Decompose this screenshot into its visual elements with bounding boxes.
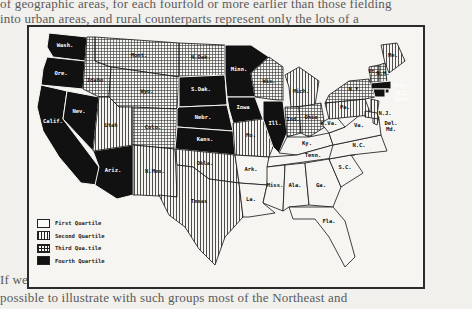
state-ndak: [179, 43, 225, 77]
state-label: La.: [246, 196, 256, 202]
state-label: Ind.: [286, 116, 299, 122]
state-label: Ore.: [54, 70, 67, 76]
state-label: Kans.: [197, 136, 214, 142]
legend-item-second: Second Quartile: [37, 230, 105, 242]
state-label: N.H.: [376, 70, 389, 76]
state-label: Nebr.: [195, 114, 212, 120]
legend-label: First Quartile: [55, 220, 101, 226]
state-label: N.Dak.: [191, 54, 211, 60]
state-label: Me.: [388, 52, 398, 58]
state-label: Ill.: [268, 120, 281, 126]
state-label: Mont.: [131, 52, 148, 58]
state-label: N.C.: [352, 142, 365, 148]
legend-swatch-second: [37, 231, 50, 240]
state-label: N.J.: [378, 110, 391, 116]
state-label: Wyo.: [140, 88, 153, 95]
state-label: Wis.: [262, 78, 275, 84]
state-label: Ala.: [288, 182, 301, 188]
state-label: Okla.: [197, 160, 214, 166]
state-label: Texas: [191, 198, 208, 204]
state-ri: [385, 89, 389, 93]
state-label: Fla.: [322, 218, 335, 224]
state-label: Mass.: [393, 82, 410, 88]
state-label: Pa.: [340, 104, 350, 110]
legend-swatch-third: [37, 244, 50, 253]
state-label: Utah: [104, 122, 117, 128]
legend-item-fourth: Fourth Quartile: [37, 255, 105, 267]
state-label: Calif.: [43, 118, 63, 124]
legend-swatch-fourth: [37, 256, 50, 265]
text-line-below-2: possible to illustrate with such groups …: [0, 290, 472, 306]
state-label: Miss.: [267, 182, 284, 188]
state-label: Mich.: [293, 88, 310, 94]
state-label: Conn.: [395, 96, 412, 102]
state-ind: [285, 107, 301, 137]
state-label: Mo.: [246, 132, 256, 138]
state-label: S.Dak.: [191, 86, 211, 92]
state-label: Minn.: [231, 66, 248, 72]
state-fla: [289, 207, 355, 267]
legend-item-third: Third Qua.tile: [37, 242, 105, 254]
legend-item-first: First Quartile: [37, 217, 105, 229]
state-label: Idaho: [87, 77, 104, 83]
legend-label: Third Qua.tile: [55, 245, 101, 251]
map-figure: Wash.Ore.Calif.Nev.Ariz.IdahoMont.Wyo.Ut…: [27, 25, 425, 289]
state-label: W.Va.: [321, 120, 338, 126]
state-label: S.C.: [338, 164, 351, 170]
state-iowa: [227, 97, 263, 123]
state-conn: [373, 89, 385, 97]
state-label: Ariz.: [105, 167, 122, 173]
state-mich: [285, 67, 319, 107]
state-label: Iowa: [236, 104, 249, 110]
state-label: Tenn.: [305, 152, 322, 158]
state-label: Ohio: [304, 114, 318, 120]
state-mass: [371, 81, 391, 89]
state-label: Ark.: [244, 166, 257, 172]
state-label: N.Y.: [348, 86, 361, 92]
state-label: Ky.: [302, 140, 312, 147]
state-label: Md.: [386, 126, 396, 132]
legend-swatch-first: [37, 219, 50, 228]
legend-label: Fourth Quartile: [55, 258, 105, 264]
state-label: Ga.: [316, 182, 326, 188]
state-label: Wash.: [57, 42, 74, 48]
state-label: N.Mex.: [145, 168, 165, 174]
state-label: Colo.: [145, 124, 162, 130]
map-legend: First Quartile Second Quartile Third Qua…: [37, 217, 105, 267]
legend-label: Second Quartile: [55, 233, 105, 239]
state-label: Nev.: [72, 108, 85, 114]
state-label: Va.: [354, 122, 364, 128]
